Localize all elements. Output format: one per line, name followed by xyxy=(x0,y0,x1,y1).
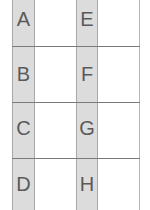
cell-label-b: B xyxy=(12,64,35,84)
row-divider xyxy=(12,158,140,159)
cell-label-g: G xyxy=(76,118,98,138)
cell-label-a: A xyxy=(12,9,35,29)
cell-label-e: E xyxy=(76,9,98,29)
row-divider xyxy=(12,46,140,47)
cell-label-h: H xyxy=(76,174,98,194)
cell-label-f: F xyxy=(76,64,98,84)
cell-label-d: D xyxy=(12,174,35,194)
cell-label-c: C xyxy=(12,118,35,138)
grid-right-border xyxy=(139,0,140,210)
row-divider xyxy=(12,102,140,103)
